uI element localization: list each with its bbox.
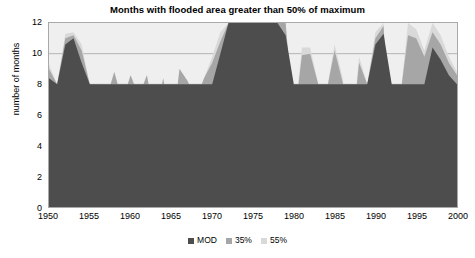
y-tick-label-12: 12: [8, 17, 42, 27]
legend-item-35: 35%: [226, 236, 252, 245]
legend-label-35: 35%: [235, 236, 252, 245]
y-tick-label-6: 6: [8, 110, 42, 120]
x-tick-label-1955: 1955: [69, 211, 109, 221]
plot-area: [48, 22, 458, 208]
legend-label-mod: MOD: [197, 236, 217, 245]
chart-legend: MOD 35% 55%: [0, 236, 475, 245]
legend-swatch-mod: [188, 238, 194, 244]
legend-label-55: 55%: [270, 236, 287, 245]
legend-swatch-35: [226, 238, 232, 244]
legend-swatch-55: [261, 238, 267, 244]
y-tick-label-10: 10: [8, 48, 42, 58]
area-chart-svg: [49, 23, 457, 207]
y-tick-label-4: 4: [8, 141, 42, 151]
x-tick-label-1990: 1990: [356, 211, 396, 221]
x-tick-label-1965: 1965: [151, 211, 191, 221]
chart-figure: Months with flooded area greater than 50…: [0, 0, 475, 258]
x-tick-label-1960: 1960: [110, 211, 150, 221]
x-tick-label-1980: 1980: [274, 211, 314, 221]
y-tick-label-2: 2: [8, 172, 42, 182]
x-tick-label-2000: 2000: [438, 211, 475, 221]
legend-item-mod: MOD: [188, 236, 217, 245]
x-tick-label-1970: 1970: [192, 211, 232, 221]
y-tick-label-8: 8: [8, 79, 42, 89]
x-tick-label-1975: 1975: [233, 211, 273, 221]
legend-item-55: 55%: [261, 236, 287, 245]
x-tick-label-1995: 1995: [397, 211, 437, 221]
x-tick-label-1950: 1950: [28, 211, 68, 221]
x-tick-label-1985: 1985: [315, 211, 355, 221]
